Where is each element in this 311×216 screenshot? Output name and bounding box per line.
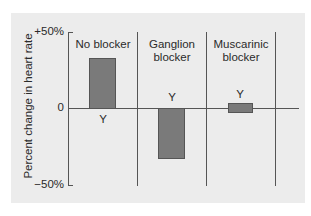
annotation-y-ganglion: Y — [162, 91, 182, 103]
y-tick-plus50: +50% — [14, 25, 64, 37]
bar-ganglion-blocker — [158, 108, 185, 159]
divider-1 — [137, 32, 138, 186]
bar-muscarinic-blocker — [228, 103, 253, 113]
bar-no-blocker — [89, 58, 116, 109]
y-tick-minus50: −50% — [14, 178, 64, 190]
category-label-ganglion-blocker: Ganglion blocker — [139, 38, 205, 64]
y-axis-bottom-tick — [68, 185, 73, 186]
y-axis — [68, 32, 69, 186]
category-label-muscarinic-blocker: Muscarinic blocker — [207, 38, 275, 64]
divider-3 — [275, 32, 276, 186]
y-axis-top-tick — [68, 32, 73, 33]
annotation-y-no-blocker: Y — [93, 113, 113, 125]
category-label-no-blocker: No blocker — [70, 38, 136, 51]
annotation-y-muscarinic: Y — [230, 88, 250, 100]
y-tick-zero: 0 — [14, 101, 64, 113]
